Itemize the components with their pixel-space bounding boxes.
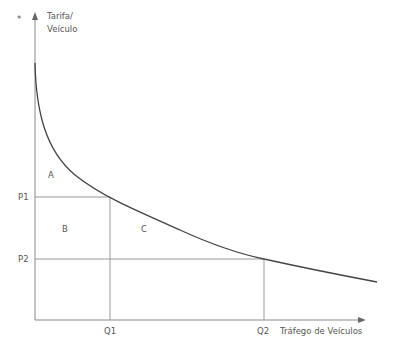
p1-label: P1 <box>18 192 29 202</box>
q1-label: Q1 <box>104 326 116 336</box>
diagram-canvas <box>0 0 396 351</box>
region-b-label: B <box>62 224 68 234</box>
x-axis-arrow-icon <box>358 317 366 323</box>
region-c-label: C <box>141 224 147 234</box>
asterisk: * <box>17 14 21 24</box>
x-axis-label: Tráfego de Veículos <box>280 326 362 336</box>
q2-label: Q2 <box>257 326 269 336</box>
y-axis-label-line1: Tarifa/ <box>47 11 73 21</box>
y-axis-arrow-icon <box>32 12 38 20</box>
y-axis-label-line2: Veículo <box>47 24 77 34</box>
p2-label: P2 <box>18 254 29 264</box>
region-a-label: A <box>48 170 54 180</box>
demand-curve <box>35 63 377 282</box>
